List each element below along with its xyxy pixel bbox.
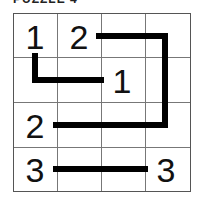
cell-number-r1c1[interactable]: 1: [13, 20, 57, 54]
cell-number-r4c1[interactable]: 3: [13, 153, 57, 187]
cell-number-r2c3[interactable]: 1: [100, 64, 144, 98]
path-3-horizontal: [53, 166, 148, 172]
cell-number-r4c4[interactable]: 3: [144, 153, 188, 187]
puzzle-title: PUZZLE 4: [13, 0, 78, 6]
path-2-right: [162, 33, 168, 128]
cell-number-r3c1[interactable]: 2: [13, 109, 57, 143]
cell-number-r1c2[interactable]: 2: [57, 20, 101, 54]
path-2-top: [96, 33, 168, 39]
grid-line: [14, 147, 190, 148]
path-1-horizontal: [32, 77, 104, 83]
path-2-bottom: [53, 122, 168, 128]
